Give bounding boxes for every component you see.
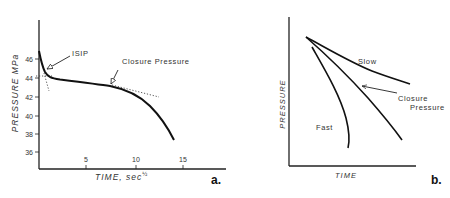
closure-pressure-arrow bbox=[111, 70, 118, 84]
y-tick-label: 40 bbox=[25, 113, 33, 120]
panel-label-a: a. bbox=[211, 173, 221, 187]
y-tick-label: 36 bbox=[25, 149, 33, 156]
closure-label-line1: Closure bbox=[398, 94, 428, 103]
closure-arrow-b bbox=[362, 86, 397, 93]
isip-arrow bbox=[47, 56, 70, 69]
x-tick-label: 5 bbox=[84, 156, 88, 163]
closure-label-line2: Pressure bbox=[410, 103, 445, 112]
y-tick-label: 44 bbox=[25, 75, 33, 82]
slow-label: Slow bbox=[358, 57, 377, 66]
chart-a: 46 44 42 40 38 36 5 10 15 PRESSURE MPa T… bbox=[10, 20, 226, 187]
panel-label-b: b. bbox=[431, 173, 442, 187]
chart-b: PRESSURE TIME Slow Fast Closure Pressure… bbox=[278, 17, 445, 187]
y-tick-label: 46 bbox=[25, 56, 33, 63]
fast-curve bbox=[312, 47, 349, 148]
x-axis-label-b: TIME bbox=[335, 171, 357, 180]
isip-label: ISIP bbox=[72, 49, 89, 58]
y-tick-label: 38 bbox=[25, 131, 33, 138]
y-tick-label: 42 bbox=[25, 94, 33, 101]
y-axis-label-b: PRESSURE bbox=[278, 79, 287, 128]
x-tick-label: 10 bbox=[132, 156, 140, 163]
x-tick-label: 15 bbox=[179, 156, 187, 163]
x-axis-label-a: TIME, sec½ bbox=[95, 171, 148, 182]
y-axis-label-a: PRESSURE MPa bbox=[10, 54, 20, 133]
fast-label: Fast bbox=[316, 123, 333, 132]
closure-pressure-label: Closure Pressure bbox=[122, 57, 190, 66]
figure: 46 44 42 40 38 36 5 10 15 PRESSURE MPa T… bbox=[0, 0, 450, 198]
